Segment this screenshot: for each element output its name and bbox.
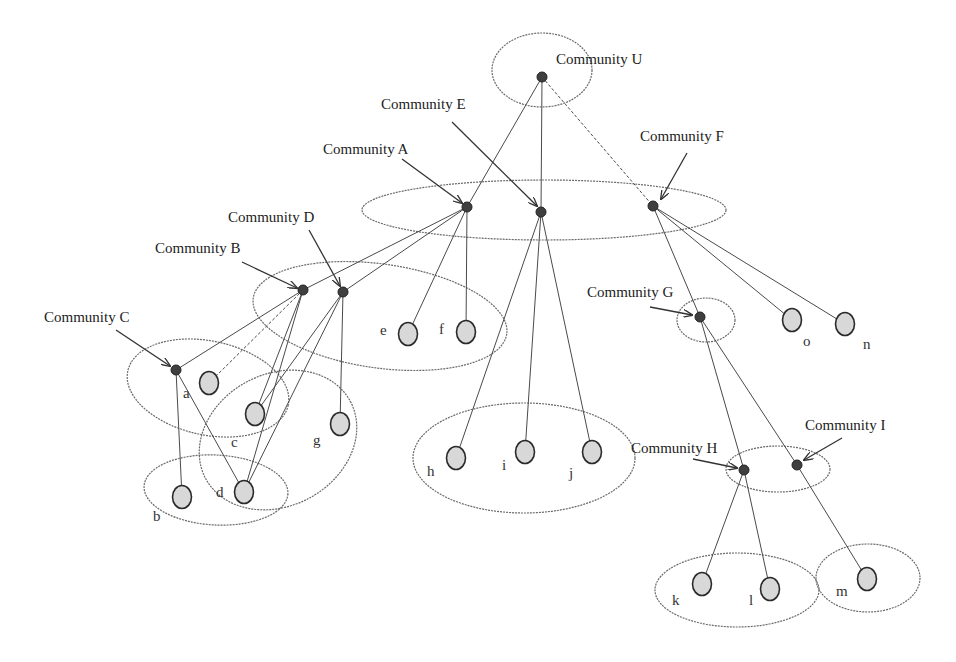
leaf-label-k: k: [672, 592, 680, 608]
edge-u-a: [467, 77, 542, 207]
community-node-i: [792, 460, 802, 470]
arrow-icon-community-g: [650, 307, 692, 315]
community-label-u: Community U: [556, 51, 642, 67]
leaf-node-k: [693, 573, 712, 596]
community-node-g: [695, 312, 705, 322]
leaf-label-a: a: [183, 385, 190, 401]
edge-a-e: [408, 207, 467, 334]
leaf-label-b: b: [153, 508, 161, 524]
community-node-f: [648, 201, 658, 211]
edge-u-f: [542, 77, 653, 206]
edge-h-l: [744, 470, 770, 589]
community-node-h: [739, 465, 749, 475]
community-groupings: [118, 33, 920, 627]
grouping-ellipse-g: [677, 298, 735, 342]
edge-u-e: [541, 77, 542, 212]
community-node-b: [298, 285, 308, 295]
community-hierarchy-diagram: Community UCommunity ECommunity ACommuni…: [0, 0, 956, 662]
arrow-icon-community-e: [452, 122, 537, 206]
leaf-node-l: [761, 578, 780, 601]
community-node-e: [536, 207, 546, 217]
community-label-c: Community C: [44, 309, 129, 325]
leaf-label-h: h: [427, 463, 435, 479]
community-node-a: [462, 202, 472, 212]
edge-a-f: [466, 207, 467, 332]
community-node-u: [537, 72, 547, 82]
leaf-node-m: [858, 568, 877, 591]
leaf-node-i: [516, 441, 535, 464]
leaf-label-m: m: [836, 583, 848, 599]
community-label-a: Community A: [323, 141, 409, 157]
leaf-node-n: [836, 313, 855, 336]
leaf-label-l: l: [749, 592, 753, 608]
hierarchy-edges: [176, 77, 867, 589]
leaf-node-c: [246, 403, 265, 426]
edge-b-c: [176, 290, 303, 370]
arrow-icon-community-b: [242, 262, 297, 288]
community-label-b: Community B: [155, 240, 240, 256]
community-node-c: [171, 365, 181, 375]
edge-b-c: [255, 290, 303, 414]
leaf-label-i: i: [502, 457, 506, 473]
arrow-icon-community-d: [309, 230, 340, 286]
edge-e-i: [525, 212, 541, 452]
arrow-icon-community-f: [661, 153, 687, 199]
edge-d-c: [255, 292, 343, 414]
leaf-label-g: g: [313, 432, 321, 448]
arrow-icon-community-a: [402, 159, 462, 203]
grouping-ellipse-k-l: [655, 553, 819, 627]
leaf-label-n: n: [863, 336, 871, 352]
grouping-ellipse-b-d-e-f: [246, 247, 514, 386]
community-node-d: [338, 287, 348, 297]
leaf-label-o: o: [803, 333, 811, 349]
leaf-node-b: [173, 486, 192, 509]
edge-f-o: [653, 206, 792, 320]
edge-d-g: [340, 292, 343, 424]
community-label-e: Community E: [381, 96, 466, 112]
edge-i-m: [797, 465, 867, 579]
community-label-g: Community G: [587, 284, 673, 300]
leaf-node-d: [235, 481, 254, 504]
leaf-label-f: f: [439, 321, 444, 337]
arrow-icon-community-c: [116, 330, 170, 366]
leaf-label-j: j: [568, 465, 573, 481]
edge-c-b: [176, 370, 182, 497]
community-label-i: Community I: [805, 417, 885, 433]
leaf-node-h: [447, 447, 466, 470]
leaf-node-j: [583, 441, 602, 464]
leaf-label-d: d: [216, 484, 224, 500]
edge-h-k: [702, 470, 744, 584]
leaf-label-e: e: [380, 322, 387, 338]
edge-f-g: [653, 206, 700, 317]
leaf-node-o: [783, 309, 802, 332]
edge-f-n: [653, 206, 845, 324]
community-label-h: Community H: [631, 440, 717, 456]
leaf-node-e: [399, 323, 418, 346]
edge-e-j: [541, 212, 592, 452]
leaf-node-g: [331, 413, 350, 436]
community-label-d: Community D: [228, 209, 314, 225]
leaf-node-f: [457, 321, 476, 344]
arrow-icon-community-i: [804, 438, 842, 460]
leaf-node-a: [200, 372, 219, 395]
leaf-label-c: c: [231, 434, 238, 450]
community-label-f: Community F: [640, 128, 724, 144]
